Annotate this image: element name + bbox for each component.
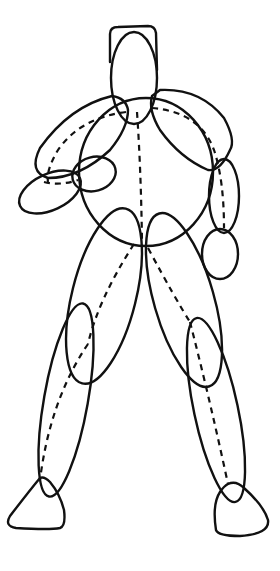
right-arm [151, 90, 239, 279]
right-leg [130, 205, 268, 536]
torso [79, 98, 213, 246]
left-leg [8, 201, 157, 529]
head [110, 26, 157, 124]
left-arm [12, 96, 128, 222]
figure-drawing [0, 0, 280, 571]
